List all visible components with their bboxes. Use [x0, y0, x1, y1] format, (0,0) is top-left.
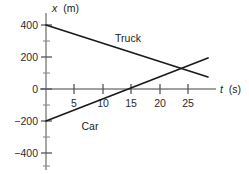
axis-titles: x (m) t (s): [51, 2, 241, 95]
y-tick-label-minus400: −400: [14, 147, 38, 159]
y-axis-title: x (m): [51, 2, 79, 14]
x-tick-label-20: 20: [154, 97, 166, 109]
x-tick-label-5: 5: [71, 97, 77, 109]
y-tick-labels: 400 200 0 −200 −400: [14, 19, 38, 159]
series-label-car: Car: [82, 120, 99, 132]
y-tick-label-minus200: −200: [14, 115, 38, 127]
y-axis-title-variable: x: [51, 2, 58, 14]
y-tick-label-200: 200: [20, 51, 38, 63]
x-tick-label-25: 25: [182, 97, 194, 109]
y-tick-label-0: 0: [32, 83, 38, 95]
x-axis-title: t (s): [220, 83, 241, 95]
x-axis-title-variable: t: [220, 83, 224, 95]
y-tick-label-400: 400: [20, 19, 38, 31]
y-axis-title-unit: (m): [63, 2, 79, 14]
plot-canvas: 400 200 0 −200 −400 5 10 15 20 25 x (m) …: [0, 0, 249, 174]
x-axis-title-unit: (s): [229, 83, 241, 95]
x-tick-label-15: 15: [125, 97, 137, 109]
series-labels: Truck Car: [82, 32, 142, 132]
x-tick-labels: 5 10 15 20 25: [71, 97, 194, 109]
motion-graph-figure: 400 200 0 −200 −400 5 10 15 20 25 x (m) …: [0, 0, 249, 174]
series-label-truck: Truck: [115, 32, 142, 44]
